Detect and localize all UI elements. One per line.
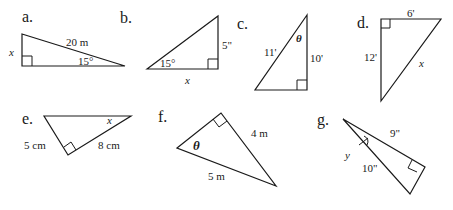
hyp-c: 11' [264,46,277,58]
hyp-g: 10" [362,162,378,174]
left-e: 5 cm [24,139,46,151]
label-b: b. [120,9,132,26]
angle-c-theta: θ [296,32,302,44]
leg-g: 9" [390,127,400,139]
opp-b: 5" [222,39,232,51]
hyp-f: 5 m [208,170,225,182]
angle-a: 15° [78,55,93,67]
label-e: e. [22,110,33,127]
triangle-e: e. 5 cm 8 cm x [22,110,131,155]
leg-f: 4 m [251,127,268,139]
adj-c: 10' [310,52,323,64]
side-d-x: x [418,57,424,69]
triangle-d: d. 6' 12' x [357,7,441,101]
top-d: 6' [407,7,415,19]
triangle-a: a. x 20 m 15° [8,8,125,67]
left-d: 12' [364,51,377,63]
triangle-g: g. 9" y 10" [317,111,425,194]
label-f: f. [158,108,167,125]
right-e: 8 cm [98,139,120,151]
label-g: g. [317,111,329,129]
triangle-diagram: a. x 20 m 15° b. 5" 15° x c. θ 11' 10' d… [0,0,453,210]
side-b-x: x [184,74,190,86]
angle-e-x: x [106,114,112,126]
hyp-a: 20 m [66,36,89,48]
angle-f-theta: θ [193,138,200,153]
angle-g-y: y [344,149,350,161]
triangle-c: c. θ 11' 10' [237,15,323,90]
angle-b: 15° [160,57,175,69]
label-a: a. [22,8,33,25]
side-a-x: x [8,46,14,58]
triangle-f: f. θ 4 m 5 m [158,108,276,186]
label-d: d. [357,14,369,31]
triangle-b: b. 5" 15° x [120,9,232,86]
label-c: c. [237,15,248,32]
